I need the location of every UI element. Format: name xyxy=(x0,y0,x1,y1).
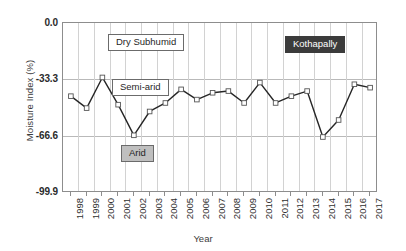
y-tick-label: -99.9 xyxy=(18,186,58,197)
data-point-marker xyxy=(147,109,152,114)
data-point-marker xyxy=(273,101,278,106)
x-tick-label: 2017 xyxy=(373,198,384,219)
x-tick-label: 2014 xyxy=(326,198,337,219)
x-tick-mark xyxy=(180,192,181,196)
data-point-marker xyxy=(336,118,341,123)
x-tick-mark xyxy=(369,192,370,196)
x-tick-mark xyxy=(133,192,134,196)
data-point-marker xyxy=(321,135,326,140)
x-tick-mark xyxy=(227,192,228,196)
annotation-semi-arid: Semi-arid xyxy=(112,79,169,96)
data-point-marker xyxy=(100,75,105,80)
x-tick-label: 2003 xyxy=(153,198,164,219)
x-tick-mark xyxy=(117,192,118,196)
annotation-dry-subhumid: Dry Subhumid xyxy=(108,34,184,51)
x-tick-label: 2015 xyxy=(342,198,353,219)
x-tick-mark xyxy=(290,192,291,196)
x-tick-mark xyxy=(322,192,323,196)
x-tick-label: 2016 xyxy=(357,198,368,219)
data-point-marker xyxy=(258,80,263,85)
x-axis-title: Year xyxy=(0,233,406,244)
data-point-marker xyxy=(226,89,231,94)
x-tick-label: 2011 xyxy=(279,198,290,218)
x-tick-mark xyxy=(212,192,213,196)
x-tick-label: 2002 xyxy=(137,198,148,219)
x-tick-label: 2004 xyxy=(168,198,179,219)
x-tick-label: 2010 xyxy=(263,198,274,219)
moisture-index-chart: 0.0 -33.3 -66.6 -99.9 Moisture Index (%) xyxy=(0,0,406,251)
x-tick-mark xyxy=(243,192,244,196)
annotation-arid: Arid xyxy=(121,145,154,162)
y-axis-tick-labels: 0.0 -33.3 -66.6 -99.9 xyxy=(14,0,58,251)
data-point-marker xyxy=(69,94,74,99)
data-point-marker xyxy=(179,87,184,92)
x-tick-label: 2005 xyxy=(184,198,195,219)
x-tick-label: 1998 xyxy=(74,198,85,219)
x-tick-mark xyxy=(164,192,165,196)
x-tick-label: 2008 xyxy=(231,198,242,219)
x-tick-label: 2012 xyxy=(294,198,305,219)
annotation-site-name: Kothapally xyxy=(285,36,345,53)
x-tick-label: 2007 xyxy=(216,198,227,219)
y-axis-title: Moisture Index (%) xyxy=(24,21,35,181)
data-point-marker xyxy=(305,89,310,94)
data-point-marker xyxy=(352,82,357,87)
x-tick-mark xyxy=(196,192,197,196)
x-tick-mark xyxy=(353,192,354,196)
x-tick-label: 1999 xyxy=(90,198,101,219)
x-tick-mark xyxy=(149,192,150,196)
x-tick-mark xyxy=(70,192,71,196)
x-tick-mark xyxy=(86,192,87,196)
data-point-marker xyxy=(242,101,247,106)
x-tick-label: 2009 xyxy=(247,198,258,219)
data-point-marker xyxy=(289,94,294,99)
data-point-marker xyxy=(116,102,121,107)
x-tick-label: 2001 xyxy=(121,198,132,219)
data-point-marker xyxy=(84,106,89,111)
x-tick-label: 2013 xyxy=(310,198,321,219)
data-point-marker xyxy=(368,85,373,90)
x-tick-label: 2000 xyxy=(105,198,116,219)
x-tick-mark xyxy=(306,192,307,196)
data-point-marker xyxy=(132,133,137,138)
x-tick-mark xyxy=(338,192,339,196)
x-tick-mark xyxy=(101,192,102,196)
x-tick-label: 2006 xyxy=(200,198,211,219)
data-point-marker xyxy=(163,101,168,106)
x-tick-mark xyxy=(275,192,276,196)
data-point-marker xyxy=(195,97,200,102)
x-tick-mark xyxy=(259,192,260,196)
data-point-marker xyxy=(210,90,215,95)
